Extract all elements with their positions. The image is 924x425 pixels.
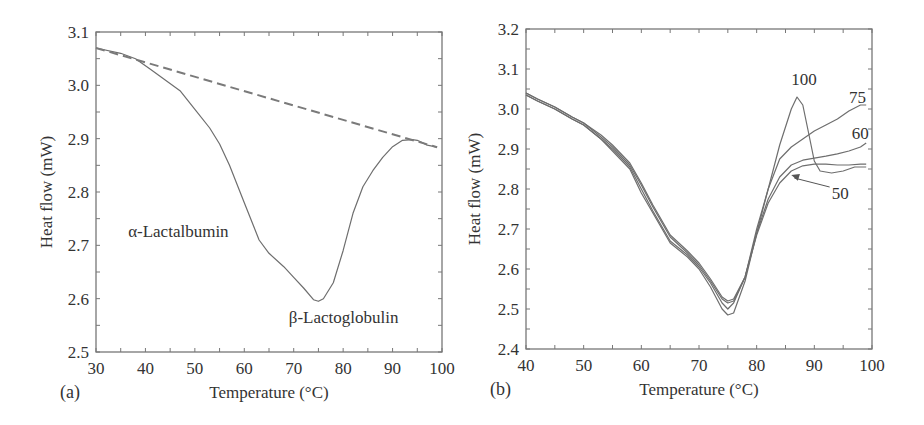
annotation-label: 75 xyxy=(849,88,866,107)
y-tick-label: 2.8 xyxy=(498,180,519,199)
x-tick-label: 80 xyxy=(335,359,352,378)
axis-ticks xyxy=(96,32,442,352)
x-tick-label: 60 xyxy=(236,359,253,378)
dsc-figure-svg: 304050607080901002.52.62.72.82.93.03.1Te… xyxy=(0,0,924,425)
y-tick-label: 3.2 xyxy=(498,20,519,39)
series-line-100 xyxy=(526,95,866,315)
x-tick-label: 100 xyxy=(429,359,455,378)
y-tick-label: 2.9 xyxy=(498,140,519,159)
x-tick-label: 70 xyxy=(285,359,302,378)
y-tick-label: 2.5 xyxy=(68,343,89,362)
series-line-60 xyxy=(526,93,866,303)
x-tick-label: 60 xyxy=(633,356,650,375)
series-line-50 xyxy=(526,93,866,301)
annotation-label: 100 xyxy=(791,70,817,89)
panel-b-chart: 4050607080901002.42.52.62.72.82.93.03.13… xyxy=(465,20,885,400)
y-axis-label: Heat flow (mW) xyxy=(37,136,56,248)
panel-label: (a) xyxy=(60,382,80,403)
x-tick-label: 80 xyxy=(748,356,765,375)
x-tick-label: 90 xyxy=(806,356,823,375)
arrow-head-icon xyxy=(791,174,800,181)
annotation-label: α-Lactalbumin xyxy=(128,222,229,241)
annotation-label: 50 xyxy=(832,184,849,203)
axis-ticks xyxy=(526,29,872,349)
x-tick-label: 70 xyxy=(691,356,708,375)
x-tick-label: 30 xyxy=(88,359,105,378)
y-tick-label: 3.1 xyxy=(498,60,519,79)
panel-label: (b) xyxy=(490,379,511,400)
x-axis-label: Temperature (°C) xyxy=(209,383,328,402)
x-tick-label: 40 xyxy=(137,359,154,378)
panel-a-chart: 304050607080901002.52.62.72.82.93.03.1Te… xyxy=(37,23,455,403)
y-tick-label: 2.6 xyxy=(498,260,519,279)
x-axis-label: Temperature (°C) xyxy=(639,380,758,399)
y-tick-label: 3.0 xyxy=(68,76,89,95)
x-tick-label: 50 xyxy=(186,359,203,378)
figure: 304050607080901002.52.62.72.82.93.03.1Te… xyxy=(0,0,924,425)
y-tick-label: 2.8 xyxy=(68,183,89,202)
plot-frame xyxy=(96,32,442,352)
y-tick-label: 3.0 xyxy=(498,100,519,119)
y-tick-label: 2.7 xyxy=(498,220,520,239)
series-line-75 xyxy=(526,95,866,309)
annotation-arrow-line xyxy=(794,178,829,187)
series-line-dsc-thermogram xyxy=(96,48,437,301)
series-line-baseline xyxy=(96,48,437,147)
y-tick-label: 2.4 xyxy=(498,340,520,359)
x-tick-label: 50 xyxy=(575,356,592,375)
annotation-label: β-Lactoglobulin xyxy=(289,308,399,327)
y-tick-label: 2.5 xyxy=(498,300,519,319)
y-axis-label: Heat flow (mW) xyxy=(465,133,484,245)
plot-frame xyxy=(526,29,872,349)
x-tick-label: 40 xyxy=(518,356,535,375)
annotation-label: 60 xyxy=(852,124,869,143)
y-tick-label: 2.7 xyxy=(68,236,90,255)
x-tick-label: 100 xyxy=(859,356,885,375)
y-tick-label: 2.9 xyxy=(68,130,89,149)
y-tick-label: 3.1 xyxy=(68,23,89,42)
y-tick-label: 2.6 xyxy=(68,290,89,309)
x-tick-label: 90 xyxy=(384,359,401,378)
